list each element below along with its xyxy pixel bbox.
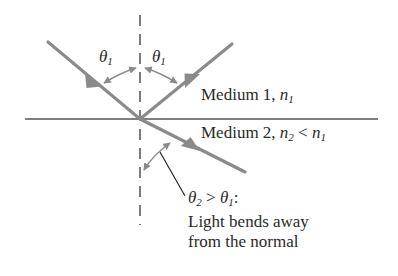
medium-2-label: Medium 2, n2 < n1 xyxy=(201,124,326,143)
incident-angle-label: θ1 xyxy=(99,48,113,67)
refracted-angle-arc xyxy=(144,143,170,170)
explanation-caption: θ2 > θ1: Light bends away from the norma… xyxy=(188,188,309,252)
medium-2-compared-index-subscript: 1 xyxy=(320,131,326,143)
reflected-ray-arrowhead xyxy=(185,74,201,89)
incident-angle-arc xyxy=(104,68,136,83)
reflected-angle-arc xyxy=(145,68,177,83)
caption-line-two: Light bends away xyxy=(188,212,309,232)
incident-ray-arrowhead xyxy=(85,73,101,88)
caption-colon: : xyxy=(234,188,239,207)
refracted-ray-arrowhead xyxy=(181,137,200,151)
medium-2-comparison-operator: < xyxy=(298,123,308,142)
incident-angle-subscript: 1 xyxy=(107,55,113,67)
reflected-angle-label: θ1 xyxy=(152,48,166,67)
medium-1-index-subscript: 1 xyxy=(288,93,294,105)
refraction-diagram: θ1 θ1 Medium 1, n1 Medium 2, n2 < n1 θ2 … xyxy=(0,0,398,276)
medium-1-name: Medium 1, xyxy=(201,85,276,104)
incident-ray xyxy=(48,42,140,119)
medium-1-label: Medium 1, n1 xyxy=(201,86,294,105)
caption-line-three: from the normal xyxy=(188,232,309,252)
caption-leader-line xyxy=(160,152,185,196)
caption-angle-comparison: θ2 > θ1: xyxy=(188,188,309,212)
medium-2-index-subscript: 2 xyxy=(288,131,294,143)
medium-2-name: Medium 2, xyxy=(201,123,276,142)
reflected-angle-subscript: 1 xyxy=(160,55,166,67)
caption-comparison-operator: > xyxy=(206,188,216,207)
